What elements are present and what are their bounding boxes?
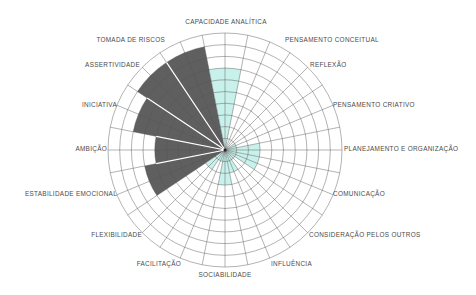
center-dot <box>224 149 227 152</box>
label-tomada-de-riscos: TOMADA DE RISCOS <box>96 36 165 43</box>
grid <box>108 33 342 267</box>
label-influencia: INFLUÊNCIA <box>271 259 312 267</box>
label-flexibilidade: FLEXIBILIDADE <box>91 231 142 238</box>
label-iniciativa: INICIATIVA <box>82 101 118 108</box>
label-ambicao: AMBIÇÃO <box>75 144 107 153</box>
polar-chart: CAPACIDADE ANALÍTICA PENSAMENTO CONCEITU… <box>0 0 476 295</box>
label-planejamento-organizacao: PLANEJAMENTO E ORGANIZAÇÃO <box>344 144 458 153</box>
grid-spoke <box>225 150 308 233</box>
grid-spoke <box>225 105 333 150</box>
label-assertividade: ASSERTIVIDADE <box>85 61 140 68</box>
grid-spoke <box>225 150 270 258</box>
label-consideracao-pelos-outros: CONSIDERAÇÃO PELOS OUTROS <box>309 230 421 239</box>
label-comunicacao: COMUNICAÇÃO <box>333 189 385 198</box>
grid-spoke <box>225 150 333 195</box>
label-pensamento-conceitual: PENSAMENTO CONCEITUAL <box>285 36 379 43</box>
label-sociabilidade: SOCIABILIDADE <box>199 271 252 278</box>
label-pensamento-criativo: PENSAMENTO CRIATIVO <box>333 101 415 108</box>
label-estabilidade-emocional: ESTABILIDADE EMOCIONAL <box>25 190 117 197</box>
label-capacidade-analitica: CAPACIDADE ANALÍTICA <box>185 17 267 25</box>
label-facilitacao: FACILITAÇÃO <box>137 259 181 268</box>
label-reflexao: REFLEXÃO <box>310 60 347 68</box>
